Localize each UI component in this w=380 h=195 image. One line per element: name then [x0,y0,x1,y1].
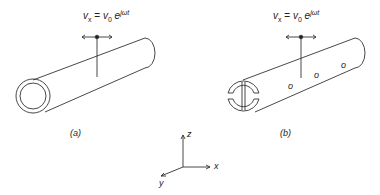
hole-label-2: o [314,70,319,80]
equation-a: vx = v0 ejωt [83,9,129,23]
eq-exponent: jωt [120,9,129,16]
eq-exp-base: e [302,10,310,21]
excitation-marker-a [82,35,112,77]
axis-label-x: x [214,161,219,171]
axis-label-y: y [159,178,164,188]
panel-label-b: (b) [280,128,291,138]
eq-sign: = [282,10,293,21]
tube-b [228,38,365,112]
eq-exponent: jωt [310,9,319,16]
eq-exp-base: e [112,10,120,21]
excitation-marker-b [286,35,316,78]
panel-label-a: (a) [70,128,81,138]
coordinate-axes [161,135,210,176]
axis-label-z: z [187,129,192,139]
tube-a [16,38,155,113]
hole-label-1: o [288,81,293,91]
figure-canvas: vx = v0 ejωt vx = v0 ejωt o o o (a) (b) … [0,0,380,195]
diagram-drawing [0,0,380,195]
equation-b: vx = v0 ejωt [273,9,319,23]
hole-label-3: o [341,60,346,70]
eq-sign: = [92,10,103,21]
